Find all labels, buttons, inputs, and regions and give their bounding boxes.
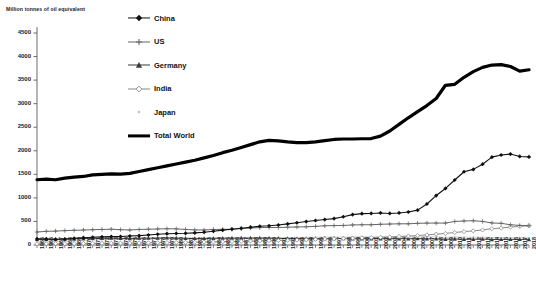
y-tick-label: 1000 [5,194,31,200]
x-tick-label: 1972 [104,237,110,249]
x-tick-label: 1987 [243,237,249,249]
x-tick-label: 1997 [336,237,342,249]
x-tick-label: 1984 [216,237,222,249]
x-tick-label: 1991 [281,237,287,249]
x-tick-label: 2000 [364,237,370,249]
x-tick-label: 2010 [457,237,463,249]
x-tick-label: 1996 [327,237,333,249]
x-tick-label: 2016 [513,237,519,249]
x-tick-label: 2009 [448,237,454,249]
y-tick-label: 4500 [5,29,31,35]
y-tick-label: 3000 [5,100,31,106]
x-tick-label: 1982 [197,237,203,249]
x-tick-label: 2014 [494,237,500,249]
chart-axes [37,27,529,245]
x-tick-label: 1998 [346,237,352,249]
chart-page: Million tonnes of oil equivalent ChinaUS… [0,0,536,287]
x-tick-label: 2013 [485,237,491,249]
y-tick-label: 2000 [5,147,31,153]
x-tick-label: 1981 [188,237,194,249]
x-tick-label: 2005 [411,237,417,249]
x-tick-label: 1999 [355,237,361,249]
y-tick-label: 500 [5,217,31,223]
x-tick-label: 1990 [271,237,277,249]
x-tick-label: 1989 [262,237,268,249]
x-tick-label: 1966 [48,237,54,249]
x-tick-label: 2001 [373,237,379,249]
x-tick-label: 2018 [531,237,536,249]
x-tick-label: 1992 [290,237,296,249]
x-tick-label: 2002 [383,237,389,249]
x-tick-label: 1965 [39,237,45,249]
x-tick-label: 1975 [132,237,138,249]
y-tick-label: 1500 [5,170,31,176]
x-tick-label: 2012 [476,237,482,249]
series-total-world [37,65,529,180]
x-tick-label: 1986 [234,237,240,249]
x-tick-label: 2008 [438,237,444,249]
x-tick-label: 1985 [225,237,231,249]
x-tick-label: 1967 [58,237,64,249]
x-tick-label: 1979 [169,237,175,249]
x-tick-label: 1971 [95,237,101,249]
x-tick-label: 2004 [401,237,407,249]
x-tick-label: 1995 [318,237,324,249]
x-tick-label: 1970 [86,237,92,249]
x-tick-label: 1993 [299,237,305,249]
x-tick-label: 1978 [160,237,166,249]
x-tick-label: 2017 [522,237,528,249]
x-tick-label: 1983 [206,237,212,249]
x-tick-label: 1977 [151,237,157,249]
x-tick-label: 1973 [113,237,119,249]
x-tick-label: 1994 [308,237,314,249]
x-tick-label: 1980 [178,237,184,249]
y-tick-label: 4000 [5,53,31,59]
x-tick-label: 1976 [141,237,147,249]
x-tick-label: 1969 [76,237,82,249]
x-tick-label: 2007 [429,237,435,249]
x-tick-label: 1968 [67,237,73,249]
y-tick-label: 0 [5,241,31,247]
x-tick-label: 1974 [123,237,129,249]
y-tick-label: 3500 [5,76,31,82]
series-china [35,152,531,241]
x-tick-label: 2011 [466,237,472,249]
y-axis-ticks [34,33,38,245]
x-tick-label: 2006 [420,237,426,249]
x-tick-label: 2015 [503,237,509,249]
x-tick-label: 2003 [392,237,398,249]
y-tick-label: 2500 [5,123,31,129]
x-tick-label: 1988 [253,237,259,249]
